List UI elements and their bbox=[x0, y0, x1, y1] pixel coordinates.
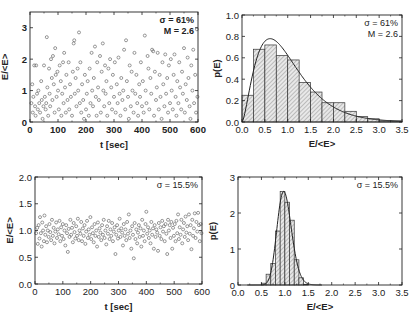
data-point bbox=[195, 220, 198, 223]
data-point bbox=[38, 102, 41, 105]
data-point bbox=[50, 218, 53, 221]
data-point bbox=[189, 224, 192, 227]
data-point bbox=[97, 86, 100, 89]
histogram-bar bbox=[276, 56, 287, 122]
data-point bbox=[180, 108, 183, 111]
data-point bbox=[40, 80, 43, 83]
data-point bbox=[135, 228, 138, 231]
data-point bbox=[153, 70, 156, 73]
data-point bbox=[98, 227, 101, 230]
data-point bbox=[53, 111, 56, 114]
data-point bbox=[47, 114, 50, 117]
y-axis-label: p(E) bbox=[207, 222, 218, 240]
x-tick-label: 600 bbox=[190, 124, 206, 135]
data-point bbox=[148, 108, 151, 111]
data-point bbox=[115, 233, 118, 236]
x-tick-label: 2.5 bbox=[349, 287, 362, 298]
data-point bbox=[158, 73, 161, 76]
data-point bbox=[89, 216, 92, 219]
data-point bbox=[152, 247, 155, 250]
histogram-bar bbox=[285, 202, 290, 285]
data-point bbox=[107, 219, 110, 222]
data-point bbox=[190, 64, 193, 67]
y-tick-label: 1 bbox=[22, 85, 28, 96]
data-point bbox=[154, 235, 157, 238]
data-point bbox=[90, 51, 93, 54]
data-point bbox=[197, 211, 200, 214]
data-point bbox=[184, 215, 187, 218]
data-point bbox=[139, 61, 142, 64]
y-tick-label: 2 bbox=[230, 208, 235, 219]
data-point bbox=[96, 61, 99, 64]
data-point bbox=[51, 55, 54, 58]
annotation-text: σ = 15.5% bbox=[357, 180, 398, 190]
data-point bbox=[34, 105, 37, 108]
data-point bbox=[42, 240, 45, 243]
x-tick-label: 0 bbox=[32, 286, 37, 297]
scatter-points bbox=[30, 28, 199, 121]
data-point bbox=[192, 48, 195, 51]
data-point bbox=[177, 238, 180, 241]
data-point bbox=[82, 99, 85, 102]
data-point bbox=[93, 223, 96, 226]
data-point bbox=[148, 229, 151, 232]
annotation-text: σ = 61% bbox=[160, 15, 194, 25]
data-point bbox=[179, 233, 182, 236]
data-point bbox=[181, 70, 184, 73]
data-point bbox=[62, 238, 65, 241]
histogram-bar bbox=[280, 191, 285, 285]
y-tick-label: 0.4 bbox=[226, 74, 239, 85]
data-point bbox=[62, 61, 65, 64]
data-point bbox=[70, 233, 73, 236]
data-point bbox=[39, 232, 42, 235]
data-point bbox=[171, 108, 174, 111]
y-tick-label: 0.8 bbox=[226, 31, 239, 42]
data-point bbox=[57, 233, 60, 236]
data-point bbox=[169, 58, 172, 61]
data-point bbox=[192, 234, 195, 237]
data-point bbox=[194, 236, 197, 239]
plot-frame bbox=[238, 177, 402, 285]
data-point bbox=[175, 114, 178, 117]
data-point bbox=[136, 231, 139, 234]
y-tick-label: 0.0 bbox=[226, 117, 239, 128]
x-axis-label: t [sec] bbox=[100, 139, 128, 150]
data-point bbox=[58, 219, 61, 222]
data-point bbox=[97, 99, 100, 102]
data-point bbox=[64, 111, 67, 114]
data-point bbox=[60, 226, 63, 229]
data-point bbox=[140, 245, 143, 248]
y-tick-label: 3 bbox=[230, 172, 235, 183]
data-point bbox=[117, 56, 120, 59]
data-point bbox=[107, 67, 110, 70]
x-tick-label: 0 bbox=[27, 124, 32, 135]
data-point bbox=[128, 64, 131, 67]
data-point bbox=[83, 117, 86, 120]
data-point bbox=[187, 239, 190, 242]
data-point bbox=[54, 73, 57, 76]
data-point bbox=[124, 108, 127, 111]
data-point bbox=[125, 239, 128, 242]
data-point bbox=[55, 221, 58, 224]
data-point bbox=[79, 232, 82, 235]
data-point bbox=[133, 222, 136, 225]
data-point bbox=[65, 73, 68, 76]
data-point bbox=[42, 105, 45, 108]
data-point bbox=[89, 102, 92, 105]
data-point bbox=[80, 220, 83, 223]
data-point bbox=[46, 86, 49, 89]
data-point bbox=[169, 102, 172, 105]
data-point bbox=[178, 61, 181, 64]
data-point bbox=[104, 92, 107, 95]
data-point bbox=[60, 234, 63, 237]
data-point bbox=[149, 242, 152, 245]
data-point bbox=[122, 223, 125, 226]
data-point bbox=[65, 224, 68, 227]
data-point bbox=[130, 247, 133, 250]
x-tick-label: 3.5 bbox=[395, 124, 408, 135]
data-point bbox=[108, 102, 111, 105]
data-point bbox=[50, 239, 53, 242]
data-point bbox=[66, 232, 69, 235]
data-point bbox=[57, 89, 60, 92]
data-point bbox=[149, 77, 152, 80]
